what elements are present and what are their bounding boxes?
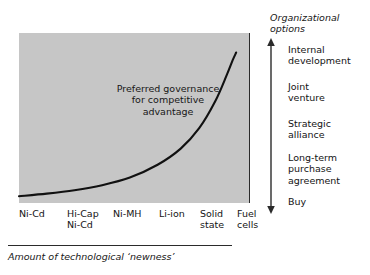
x-tick-label: Li-ion (159, 208, 185, 219)
x-tick-label: Ni-Cd (19, 208, 45, 219)
chart-figure: Preferred governance for competitive adv… (0, 0, 370, 275)
y-axis-option-label: Long-term purchase agreement (288, 152, 368, 186)
x-axis-title: Amount of technological ‘newness’ (8, 251, 174, 262)
arrow-down-icon (267, 206, 275, 214)
curve-svg (19, 33, 250, 203)
plot-area: Preferred governance for competitive adv… (19, 33, 250, 203)
y-axis-option-label: Strategic alliance (288, 118, 368, 141)
y-axis-option-label: Buy (288, 196, 368, 207)
x-axis-line (8, 245, 232, 246)
y-axis-option-label: Joint venture (288, 81, 368, 104)
curve-annotation-label: Preferred governance for competitive adv… (115, 83, 221, 117)
x-tick-label: Fuel cells (237, 208, 258, 230)
y-axis-title: Organizational options (270, 12, 368, 35)
y-axis-option-label: Internal development (288, 44, 368, 67)
governance-curve (19, 53, 236, 197)
x-tick-label: Ni-MH (113, 208, 142, 219)
y-axis-double-arrow (262, 38, 280, 214)
arrow-up-icon (267, 38, 275, 46)
x-tick-label: Hi-Cap Ni-Cd (67, 208, 99, 230)
x-tick-label: Solid state (200, 208, 224, 230)
